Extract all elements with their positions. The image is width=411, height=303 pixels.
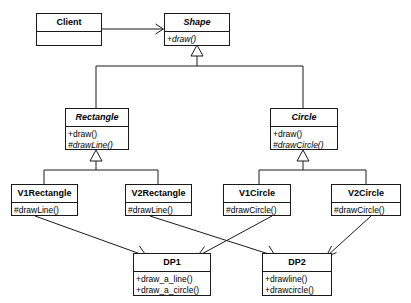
operation-draw-line: #drawLine() [128,205,191,216]
class-operations-shape: +draw() [165,32,229,47]
class-name-dp1: DP1 [134,254,210,272]
uml-class-v2rectangle[interactable]: V2Rectangle #drawLine() [125,184,192,216]
operation-draw-line: #drawLine() [14,205,77,216]
operation-draw-circle: #drawCircle() [273,140,337,151]
operation-draw: +draw() [273,129,337,140]
edge-v2rectangle-to-dp2 [150,216,276,257]
uml-class-v1rectangle[interactable]: V1Rectangle #drawLine() [11,184,78,216]
operation-draw: +draw() [167,34,229,45]
class-name-v2circle: V2Circle [332,185,400,203]
class-operations-circle: +draw() #drawCircle() [271,127,337,153]
operation-drawline: +drawline() [265,274,331,285]
edge-shape-generalization-bus [96,45,303,108]
edge-v1circle-to-dp1 [197,216,272,257]
class-operations-v1rectangle: #drawLine() [12,203,77,218]
class-operations-v1circle: #drawCircle() [224,203,290,218]
uml-class-diagram: Client Shape +draw() Rectangle +draw() #… [0,0,411,303]
class-name-dp2: DP2 [263,254,331,272]
class-name-rectangle: Rectangle [66,109,128,127]
edge-client-to-shape [101,24,164,34]
class-operations-rectangle: +draw() #drawLine() [66,127,128,153]
operation-draw-a-circle: +draw_a_circle() [136,285,210,296]
edge-v1rectangle-to-dp1 [35,216,147,257]
class-operations-v2rectangle: #drawLine() [126,203,191,218]
class-operations-client [37,32,101,49]
edge-circle-generalization-bus [259,150,366,184]
edge-rectangle-generalization-bus [44,150,158,184]
class-name-circle: Circle [271,109,337,127]
class-name-v1rectangle: V1Rectangle [12,185,77,203]
uml-class-dp1[interactable]: DP1 +draw_a_line() +draw_a_circle() [133,253,211,296]
uml-class-circle[interactable]: Circle +draw() #drawCircle() [270,108,338,150]
operation-draw-circle: #drawCircle() [334,205,400,216]
operation-draw: +draw() [68,129,128,140]
class-operations-dp2: +drawline() +drawcircle() [263,272,331,298]
operation-drawcircle: +drawcircle() [265,285,331,296]
edge-v2circle-to-dp2 [326,216,371,257]
operation-draw-circle: #drawCircle() [226,205,290,216]
class-name-v2rectangle: V2Rectangle [126,185,191,203]
operation-draw-line: #drawLine() [68,140,128,151]
class-name-shape: Shape [165,14,229,32]
uml-class-v1circle[interactable]: V1Circle #drawCircle() [223,184,291,216]
uml-class-shape[interactable]: Shape +draw() [164,13,230,46]
class-operations-v2circle: #drawCircle() [332,203,400,218]
uml-class-rectangle[interactable]: Rectangle +draw() #drawLine() [65,108,129,150]
operation-draw-a-line: +draw_a_line() [136,274,210,285]
uml-class-v2circle[interactable]: V2Circle #drawCircle() [331,184,401,216]
class-name-v1circle: V1Circle [224,185,290,203]
uml-class-dp2[interactable]: DP2 +drawline() +drawcircle() [262,253,332,296]
class-name-client: Client [37,14,101,32]
class-operations-dp1: +draw_a_line() +draw_a_circle() [134,272,210,298]
uml-class-client[interactable]: Client [36,13,102,46]
